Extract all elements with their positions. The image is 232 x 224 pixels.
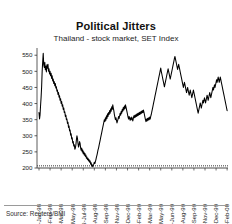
x-axis-tick-label: 03-Nov-99 xyxy=(202,203,208,224)
x-axis-tick-label: 09-Feb-99 xyxy=(136,203,142,224)
source-divider xyxy=(4,205,228,206)
y-axis-tick-label: 500 xyxy=(22,68,33,75)
x-axis-tick-label: 01-Feb-00 xyxy=(224,203,230,224)
x-axis-tick-label: 09-Aug-99 xyxy=(180,203,186,224)
y-axis-tick-label: 200 xyxy=(22,164,33,171)
x-axis-tick-label: 24-Mar-99 xyxy=(147,203,153,224)
y-axis-tick-label: 300 xyxy=(22,132,33,139)
y-axis-tick-label: 400 xyxy=(22,100,33,107)
y-axis-tick-label: 250 xyxy=(22,148,33,155)
x-axis-tick-label: 25-Dec-98 xyxy=(125,203,131,224)
x-axis-tick-label: 11-Nov-98 xyxy=(114,203,120,224)
y-axis-tick-label: 450 xyxy=(22,84,33,91)
data-series-line xyxy=(39,53,227,166)
x-axis-tick-label: 03-Jul-98 xyxy=(81,203,87,224)
x-axis-tick-label: 18-Aug-98 xyxy=(92,203,98,224)
chart-figure: Political Jitters Thailand - stock marke… xyxy=(0,0,232,224)
chart-plot-area: 20025030035040045050055005-Jan-9817-Feb-… xyxy=(0,0,232,224)
x-axis-tick-label: 21-Sep-99 xyxy=(191,203,197,224)
x-axis-tick-label: 17-Dec-99 xyxy=(213,203,219,224)
y-axis-tick-label: 350 xyxy=(22,116,33,123)
y-axis-tick-label: 550 xyxy=(22,51,33,58)
x-axis-tick-label: 13-May-99 xyxy=(158,203,164,224)
chart-source: Source: Reuters/BMI xyxy=(6,210,65,217)
x-axis-tick-label: 29-Sep-98 xyxy=(103,203,109,224)
x-axis-tick-label: 21-May-98 xyxy=(70,203,76,224)
x-axis-tick-label: 25-Jun-99 xyxy=(169,203,175,224)
